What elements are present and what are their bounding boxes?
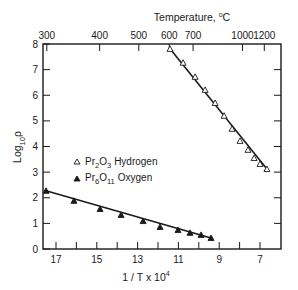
x-tick-label: 11 — [173, 254, 184, 265]
y-tick-label: 4 — [32, 141, 38, 152]
y-tick-label: 0 — [32, 244, 38, 255]
x-tick-label: 15 — [91, 254, 103, 265]
open-triangle-icon — [167, 46, 173, 52]
svg-text:Pr6O11Oxygen: Pr6O11Oxygen — [85, 172, 152, 186]
y-tick-label: 7 — [32, 64, 38, 75]
open-triangle-icon — [74, 159, 80, 164]
top-tick-label: 700 — [185, 30, 202, 41]
arrhenius-plot: 1715131197 012345678 3004005006007001000… — [0, 0, 298, 290]
svg-text:Pr2O3Hydrogen: Pr2O3Hydrogen — [85, 156, 157, 170]
legend: Pr2O3Hydrogen Pr6O11Oxygen — [74, 156, 157, 186]
filled-triangle-icon — [43, 188, 49, 194]
fit-line-1 — [46, 191, 211, 238]
filled-triangle-icon — [74, 176, 80, 181]
top-tick-label: 1200 — [253, 30, 276, 41]
top-tick-label: 600 — [161, 30, 178, 41]
top-axis-ticks: 30040050060070010001200 — [38, 30, 275, 51]
top-tick-label: 300 — [38, 30, 55, 41]
left-axis-ticks: 012345678 — [32, 39, 50, 255]
x-tick-label: 17 — [50, 254, 62, 265]
fit-lines — [46, 49, 267, 238]
x-tick-label: 9 — [216, 254, 222, 265]
top-tick-label: 400 — [91, 30, 108, 41]
y-tick-label: 1 — [32, 218, 38, 229]
plot-frame — [43, 44, 281, 249]
right-axis-ticks — [274, 70, 281, 224]
legend-item-oxygen: Pr6O11Oxygen — [74, 172, 152, 186]
y-axis-title: Log10ρ — [11, 131, 27, 163]
top-tick-label: 1000 — [231, 30, 254, 41]
legend-item-hydrogen: Pr2O3Hydrogen — [74, 156, 157, 170]
x-tick-label: 7 — [257, 254, 263, 265]
y-tick-label: 6 — [32, 90, 38, 101]
y-tick-label: 3 — [32, 167, 38, 178]
bottom-axis-ticks: 1715131197 — [50, 242, 263, 265]
top-tick-label: 500 — [130, 30, 147, 41]
y-tick-label: 2 — [32, 192, 38, 203]
data-markers — [43, 46, 270, 241]
top-axis-title: Temperature, oC — [154, 11, 231, 23]
fit-line-0 — [170, 49, 267, 169]
x-axis-title: 1 / T x 104 — [122, 270, 169, 283]
x-tick-label: 13 — [132, 254, 144, 265]
y-tick-label: 5 — [32, 115, 38, 126]
